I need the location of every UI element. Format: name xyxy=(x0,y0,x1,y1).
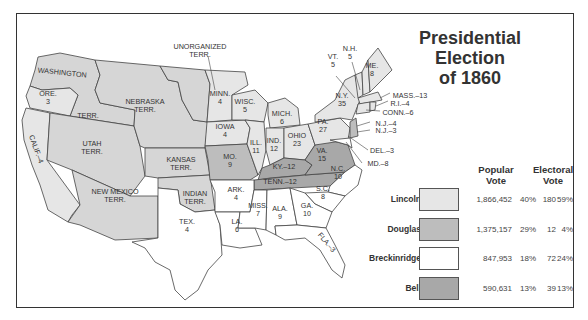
legend-row-douglas: Douglas 1,375,157 29% 12 4% xyxy=(398,218,573,242)
label-wisc-value: 5 xyxy=(243,105,247,114)
popular-pct: 13% xyxy=(516,284,536,293)
label-mo-value: 9 xyxy=(228,160,232,169)
label-ny-value: 35 xyxy=(338,99,346,108)
electoral-header-line-2: Vote xyxy=(528,175,578,186)
legend-row-lincoln: Lincoln 1,866,452 40% 180 59% xyxy=(398,188,573,212)
electoral-pct: 24% xyxy=(556,254,573,263)
label-nh-value: 5 xyxy=(348,52,352,61)
label-tex-value: 4 xyxy=(185,225,189,234)
popular-header-line-1: Popular xyxy=(466,164,526,175)
electoral-header-line-1: Electoral xyxy=(528,164,578,175)
swatch-douglas xyxy=(419,218,459,241)
label-md: MD.–8 xyxy=(367,159,388,168)
popular-votes: 1,866,452 xyxy=(462,195,512,204)
electoral-vote-header: Electoral Vote xyxy=(528,164,578,186)
label-ky: KY.–12 xyxy=(273,162,296,171)
title-line-2: of 1860 xyxy=(385,68,555,88)
label-nj-2: N.J.–3 xyxy=(376,126,397,135)
popular-pct: 18% xyxy=(516,254,536,263)
label-del: DEL.–3 xyxy=(370,146,394,155)
label-ill-value: 11 xyxy=(252,146,259,155)
label-unorganized-terr: TERR. xyxy=(189,50,211,59)
label-ark-value: 4 xyxy=(234,193,238,202)
popular-votes: 847,953 xyxy=(462,254,512,263)
label-ohio-value: 23 xyxy=(293,139,301,148)
label-nebraska-terr: TERR. xyxy=(134,105,156,114)
region-ri xyxy=(370,102,376,111)
label-ri: R.I.–4 xyxy=(390,99,409,108)
label-washington-terr: TERR. xyxy=(77,111,99,120)
label-la-value: 6 xyxy=(235,225,239,234)
label-utah-terr: TERR. xyxy=(81,147,103,156)
label-kansas-terr: TERR. xyxy=(170,163,192,172)
label-minn-value: 4 xyxy=(218,97,222,106)
electoral-pct: 59% xyxy=(556,195,573,204)
electoral-pct: 13% xyxy=(556,284,573,293)
candidate-name: Lincoln xyxy=(391,194,421,204)
swatch-lincoln xyxy=(419,188,459,211)
electoral-votes: 39 xyxy=(538,284,556,293)
electoral-votes: 72 xyxy=(538,254,556,263)
label-tenn: TENN.–12 xyxy=(263,177,297,186)
swatch-bell xyxy=(419,277,459,300)
swatch-breckinridge xyxy=(419,247,459,270)
label-pa-value: 27 xyxy=(319,125,327,134)
label-ala-value: 9 xyxy=(278,212,282,221)
candidate-name: Breckinridge xyxy=(369,253,421,263)
label-va-value: 15 xyxy=(318,154,326,163)
popular-pct: 29% xyxy=(516,225,536,234)
electoral-votes: 12 xyxy=(538,225,556,234)
region-wisconsin xyxy=(232,90,268,122)
popular-votes: 1,375,157 xyxy=(462,225,512,234)
popular-pct: 40% xyxy=(516,195,536,204)
legend-row-breckinridge: Breckinridge 847,953 18% 72 24% xyxy=(398,247,573,271)
legend-row-bell: Bell 590,631 13% 39 13% xyxy=(398,277,573,301)
popular-votes: 590,631 xyxy=(462,284,512,293)
label-newmex-terr: TERR. xyxy=(104,195,126,204)
label-conn: CONN.–6 xyxy=(382,108,413,117)
label-vt-value: 5 xyxy=(331,60,335,69)
electoral-votes: 180 xyxy=(538,195,556,204)
label-indian-terr: TERR. xyxy=(184,197,206,206)
region-nj xyxy=(350,118,358,138)
region-florida xyxy=(275,225,345,278)
label-mich-value: 6 xyxy=(280,117,284,126)
label-iowa-value: 4 xyxy=(223,130,227,139)
label-ga-value: 10 xyxy=(303,209,311,218)
map-title: Presidential Election of 1860 xyxy=(385,28,555,88)
label-ind-value: 12 xyxy=(270,144,278,153)
label-sc-value: 8 xyxy=(321,192,325,201)
label-ore-value: 3 xyxy=(46,97,50,106)
label-me-value: 8 xyxy=(370,69,374,78)
popular-header-line-2: Vote xyxy=(466,175,526,186)
title-line-1: Presidential Election xyxy=(385,28,555,68)
electoral-pct: 4% xyxy=(556,225,573,234)
region-conn xyxy=(356,102,370,114)
candidate-name: Douglas xyxy=(387,224,421,234)
label-nc-value: 10 xyxy=(334,172,342,181)
popular-vote-header: Popular Vote xyxy=(466,164,526,186)
label-miss-value: 7 xyxy=(256,209,260,218)
